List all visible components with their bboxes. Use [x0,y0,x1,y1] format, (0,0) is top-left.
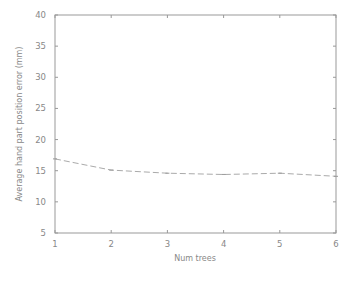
data-markers [53,159,338,176]
line-chart: 510152025303540 123456 Num trees Average… [0,0,359,284]
x-axis-label: Num trees [174,254,216,263]
y-tick-label: 10 [35,197,46,207]
y-tick-label: 20 [35,135,46,145]
y-tick-label: 15 [35,166,46,176]
x-tick-label: 1 [52,239,57,249]
x-tick-label: 4 [221,239,226,249]
x-tick-label: 6 [333,239,338,249]
y-tick-label: 30 [35,72,46,82]
y-tick-label: 40 [35,10,46,20]
y-tick-label: 25 [35,103,46,113]
x-tick-label: 3 [165,239,170,249]
y-tick-label: 35 [35,41,46,51]
x-axis-ticks: 123456 [52,15,338,249]
x-tick-label: 5 [277,239,282,249]
y-axis-ticks: 510152025303540 [35,10,336,238]
data-line [55,159,336,176]
y-axis-label: Average hand part position error (mm) [15,47,24,202]
y-tick-label: 5 [41,228,46,238]
plot-frame [55,15,336,233]
x-tick-label: 2 [108,239,113,249]
